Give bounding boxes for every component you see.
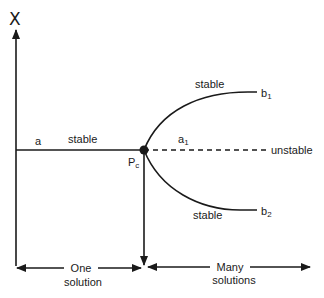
y-axis-label: X <box>9 9 21 29</box>
branch-b1: stable b1 <box>144 78 272 150</box>
branch-a-stability: stable <box>68 133 97 145</box>
branch-b1-stability: stable <box>195 78 224 90</box>
many-solutions-line1: Many <box>217 261 244 273</box>
many-solutions-line2: solutions <box>212 274 256 286</box>
branch-b2-stability: stable <box>193 209 222 221</box>
critical-point: Pc <box>128 146 149 171</box>
branch-b2-label: b2 <box>261 205 272 219</box>
critical-point-label: Pc <box>128 156 139 170</box>
one-solution-line1: One <box>71 262 92 274</box>
branch-a1-label: a1 <box>178 133 189 147</box>
y-axis: X <box>9 9 21 266</box>
unstable-label: unstable <box>271 144 313 156</box>
bifurcation-diagram: X a stable a1 unstable stable b1 stable … <box>0 0 324 298</box>
branch-a-label: a <box>35 135 42 147</box>
one-solution-line2: solution <box>64 276 102 288</box>
branch-a1: a1 unstable <box>144 133 313 156</box>
branch-a: a stable <box>16 133 144 150</box>
branch-b1-label: b1 <box>261 87 272 101</box>
many-solutions-region: Many solutions <box>148 261 310 286</box>
branch-b2: stable b2 <box>144 150 272 221</box>
one-solution-region: One solution <box>17 262 141 288</box>
